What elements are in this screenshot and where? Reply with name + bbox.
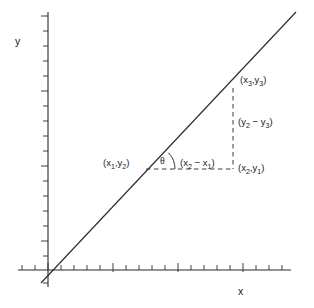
sloped-line: [41, 12, 296, 283]
p1-close: ): [126, 157, 129, 168]
x-axis-label: x: [238, 286, 243, 297]
point-label-p1: (x1,y2): [103, 158, 129, 170]
p2-open: (x: [238, 162, 246, 173]
run-label: (x2 − x1): [180, 158, 215, 170]
run-mid: − x: [192, 157, 208, 168]
theta-label: θ: [160, 156, 165, 166]
slope-diagram-figure: y x (x1,y2) θ (x2 − x1) (x2,y1) (y2 − y3…: [0, 0, 314, 308]
p2-close: ): [261, 162, 264, 173]
p1-open: (x: [103, 157, 111, 168]
x-axis-ticks: [22, 263, 282, 272]
diagram-canvas: [0, 0, 314, 308]
rise-label: (y2 − y3): [238, 117, 273, 129]
rise-mid: − y: [250, 116, 266, 127]
y-axis-ticks: [41, 16, 48, 283]
theta-arc: [169, 153, 176, 169]
p3-open: (x: [240, 74, 248, 85]
point-label-p3: (x3,y3): [240, 75, 266, 87]
p3-close: ): [263, 74, 266, 85]
run-open: (x: [180, 157, 188, 168]
y-axis-label: y: [15, 36, 20, 47]
rise-open: (y: [238, 116, 246, 127]
point-label-p2: (x2,y1): [238, 163, 264, 175]
run-close: ): [212, 157, 215, 168]
rise-close: ): [270, 116, 273, 127]
